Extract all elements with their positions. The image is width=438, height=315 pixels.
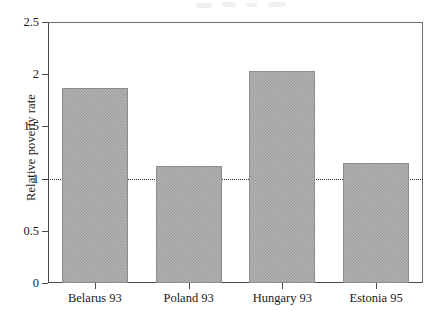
x-tick-label: Estonia 95 <box>350 291 403 306</box>
y-tick-mark <box>42 283 48 284</box>
scan-artifact <box>268 2 286 7</box>
x-tick-label: Hungary 93 <box>253 291 312 306</box>
x-tick-label: Poland 93 <box>163 291 213 306</box>
y-tick-mark <box>42 231 48 232</box>
y-tick-mark <box>42 126 48 127</box>
x-tick-mark <box>95 283 96 289</box>
scan-artifact <box>196 3 212 8</box>
y-tick-label: 1 <box>0 171 39 186</box>
x-tick-label: Belarus 93 <box>68 291 122 306</box>
y-tick-label: 2 <box>0 67 39 82</box>
x-tick-mark <box>376 283 377 289</box>
y-tick-label: 1.5 <box>0 119 39 134</box>
bar <box>156 166 222 283</box>
bar <box>249 71 315 283</box>
y-tick-label: 0.5 <box>0 223 39 238</box>
bar <box>62 88 128 283</box>
bar <box>343 163 409 283</box>
x-tick-mark <box>282 283 283 289</box>
y-tick-mark <box>42 74 48 75</box>
y-tick-mark <box>42 22 48 23</box>
x-tick-mark <box>189 283 190 289</box>
chart-figure: Relative poverty rate 00.511.522.5 Belar… <box>0 0 438 315</box>
y-tick-label: 0 <box>0 276 39 291</box>
scan-artifact <box>246 3 257 7</box>
scan-artifact <box>222 2 236 7</box>
y-tick-label: 2.5 <box>0 15 39 30</box>
